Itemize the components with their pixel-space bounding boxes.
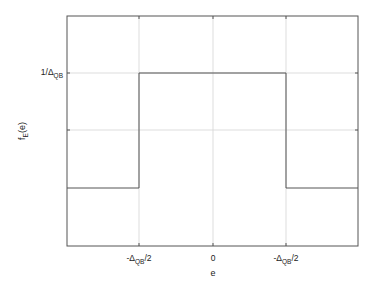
xtick-center: 0 bbox=[211, 253, 216, 263]
ylabel-sub: E bbox=[22, 133, 29, 137]
ylabel-main: f bbox=[17, 137, 27, 140]
xtick-right-tail: /2 bbox=[291, 253, 298, 263]
plot-area bbox=[0, 0, 377, 293]
xtick-left-main: -Δ bbox=[126, 253, 135, 263]
xtick-right-main: -Δ bbox=[273, 253, 282, 263]
xtick-left-tail: /2 bbox=[144, 253, 151, 263]
xtick-left-sub: QB bbox=[135, 258, 144, 265]
ytick-sub: QB bbox=[54, 72, 63, 79]
ytick-main: 1/Δ bbox=[41, 67, 54, 77]
xtick-right: -ΔQB/2 bbox=[273, 253, 298, 263]
xtick-right-sub: QB bbox=[282, 258, 291, 265]
pdf-line bbox=[67, 73, 358, 188]
tick-marks bbox=[67, 16, 358, 246]
y-axis-label: fE(e) bbox=[17, 122, 27, 140]
ytick-label: 1/ΔQB bbox=[41, 67, 63, 77]
xtick-left: -ΔQB/2 bbox=[126, 253, 151, 263]
xtick-center-label: 0 bbox=[211, 253, 216, 263]
x-axis-label: e bbox=[210, 268, 215, 278]
axes-box bbox=[67, 16, 358, 246]
ylabel-tail: (e) bbox=[17, 122, 27, 133]
grid-lines bbox=[67, 16, 358, 246]
